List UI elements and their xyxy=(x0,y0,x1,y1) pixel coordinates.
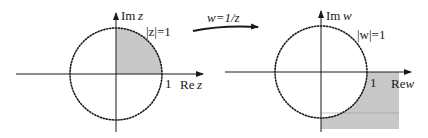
mapping-label: w=1/z xyxy=(207,11,240,24)
right-tick-one: 1 xyxy=(370,76,377,89)
right-shaded-region xyxy=(321,72,399,129)
right-real-axis-label: Rew xyxy=(391,77,414,90)
mapping-arrow xyxy=(193,27,258,32)
right-circle-label: |w|=1 xyxy=(357,28,385,41)
right-imag-axis-label: Im w xyxy=(326,9,352,22)
left-circle-label: |z|=1 xyxy=(146,25,171,38)
left-tick-one: 1 xyxy=(165,77,172,90)
left-real-axis-label: Re z xyxy=(180,78,202,91)
left-imag-axis-label: Im z xyxy=(121,9,143,22)
